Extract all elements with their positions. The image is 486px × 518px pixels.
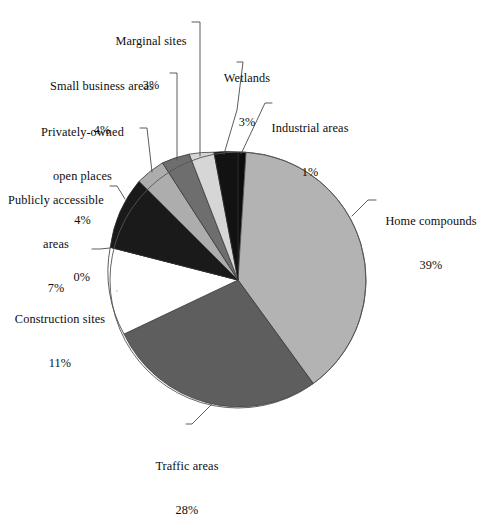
- pie-label-traffic-areas: Traffic areas 28%: [132, 430, 242, 518]
- pie-label-construction-sites-value: 11%: [4, 356, 116, 371]
- pie-label-industrial-areas: Industrial areas 1%: [252, 92, 368, 209]
- pie-label-wetlands-name: Wetlands: [208, 71, 286, 86]
- pie-label-marginal-sites-name: Marginal sites: [96, 34, 206, 49]
- pie-label-construction-sites: Construction sites 11%: [4, 283, 116, 400]
- pie-label-publicly-accessible-areas-name: Publicly accessible: [2, 193, 110, 208]
- pie-label-home-compounds: Home compounds 39%: [378, 185, 484, 302]
- leader-line-traffic-areas: [186, 404, 212, 424]
- pie-label-construction-sites-name: Construction sites: [4, 312, 116, 327]
- pie-label-small-business-areas-name: Small business areas: [34, 79, 170, 94]
- pie-label-industrial-areas-name: Industrial areas: [252, 121, 368, 136]
- pie-label-home-compounds-name: Home compounds: [378, 214, 484, 229]
- pie-label-traffic-areas-name: Traffic areas: [132, 459, 242, 474]
- pie-label-privately-owned-open-places-name: Privately-owned: [25, 125, 140, 140]
- pie-label-home-compounds-value: 39%: [378, 258, 484, 273]
- pie-label-traffic-areas-value: 28%: [132, 503, 242, 518]
- pie-label-industrial-areas-value: 1%: [252, 165, 368, 180]
